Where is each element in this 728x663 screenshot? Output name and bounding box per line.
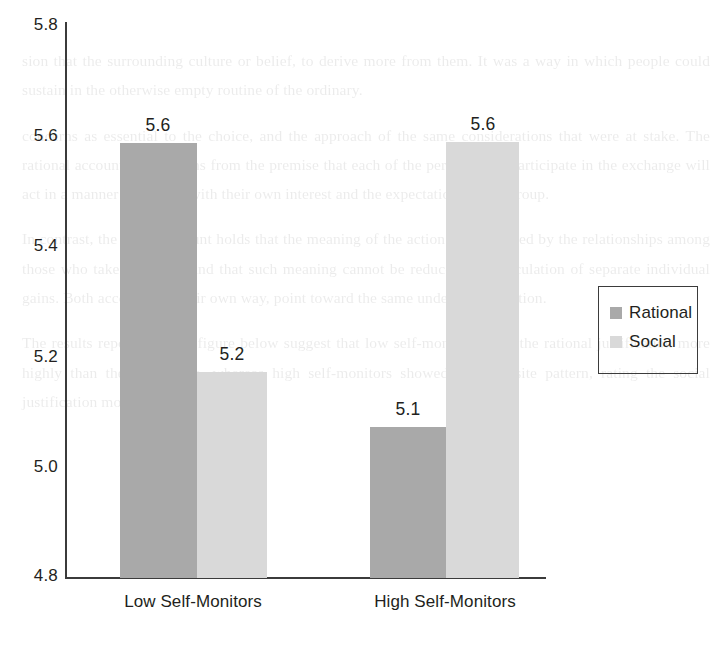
legend-label: Social xyxy=(629,332,676,352)
y-tick-label: 4.8 xyxy=(2,566,58,586)
legend-item-rational: Rational xyxy=(610,303,697,323)
bar-high-rational xyxy=(370,427,446,578)
bar-high-social xyxy=(446,142,519,578)
y-tick-label: 5.0 xyxy=(2,457,58,477)
bar-chart-figure: 5.8 5.6 5.4 5.2 5.0 4.8 5.6 5.2 5.1 5.6 … xyxy=(0,0,728,663)
bar-value-label: 5.6 xyxy=(471,114,496,135)
bar-low-social xyxy=(197,372,267,578)
x-category-label-high: High Self-Monitors xyxy=(374,592,516,612)
bar-value-label: 5.1 xyxy=(396,399,421,420)
y-axis-tick-labels: 5.8 5.6 5.4 5.2 5.0 4.8 xyxy=(0,0,58,663)
legend-swatch-icon xyxy=(610,307,622,319)
x-category-label-low: Low Self-Monitors xyxy=(124,592,262,612)
bar-low-rational xyxy=(120,143,197,578)
legend-label: Rational xyxy=(629,303,692,323)
legend-swatch-icon xyxy=(610,336,622,348)
bar-value-label: 5.6 xyxy=(146,115,171,136)
y-tick-label: 5.6 xyxy=(2,126,58,146)
y-axis-line xyxy=(65,22,67,579)
y-tick-label: 5.2 xyxy=(2,347,58,367)
bar-value-label: 5.2 xyxy=(220,344,245,365)
y-tick-label: 5.8 xyxy=(2,15,58,35)
y-tick-label: 5.4 xyxy=(2,236,58,256)
legend-item-social: Social xyxy=(610,332,697,352)
chart-legend: Rational Social xyxy=(598,286,698,374)
